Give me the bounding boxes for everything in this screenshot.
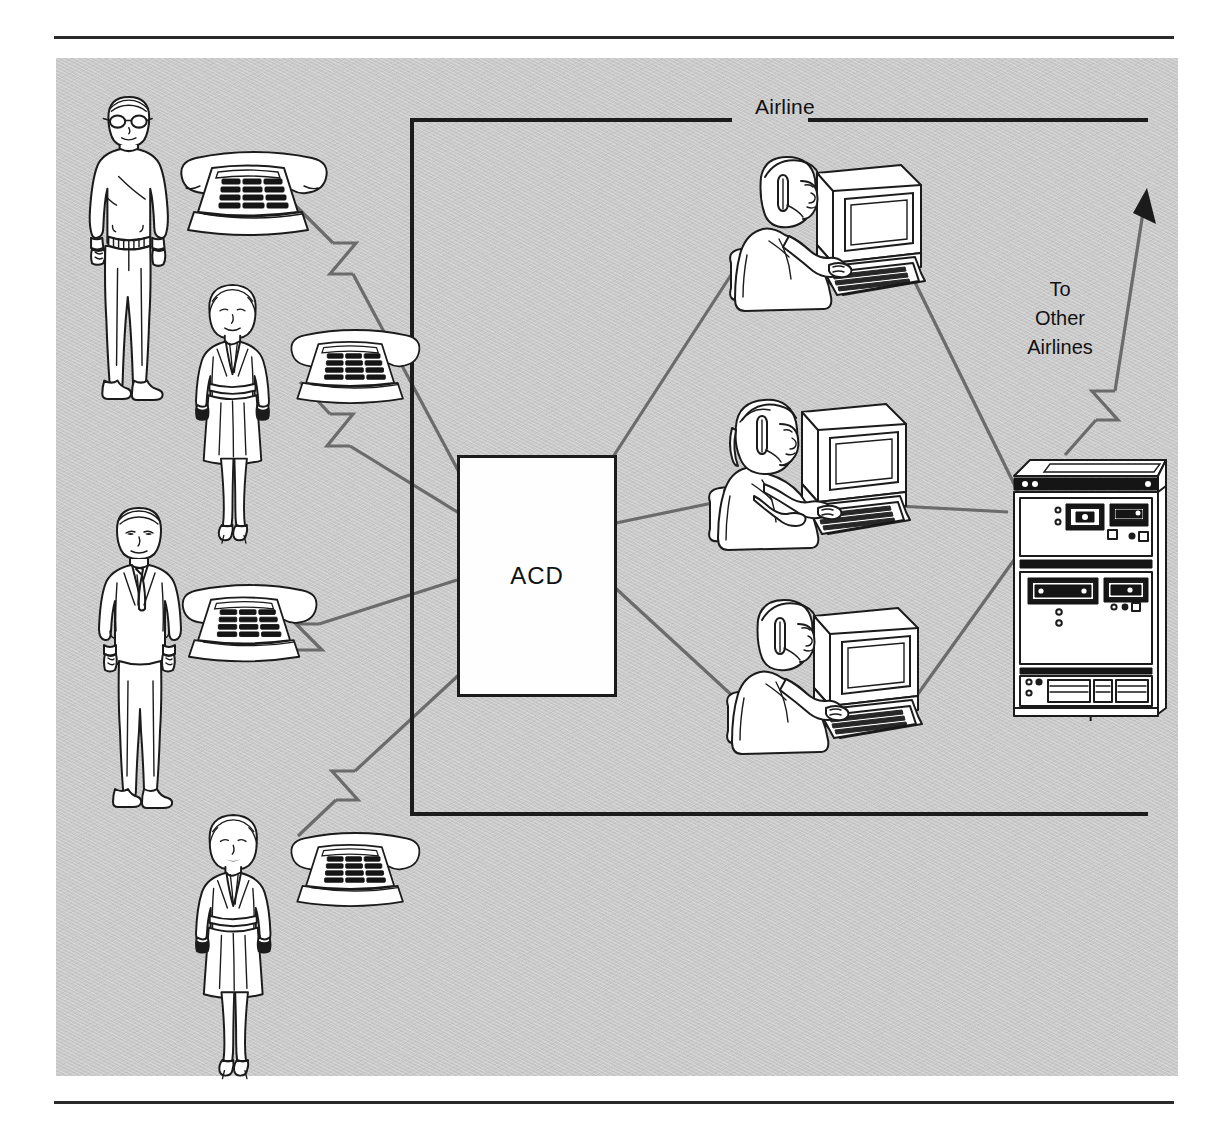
acd-node: ACD: [457, 455, 617, 697]
agent-terminal-icon-1: [730, 157, 925, 311]
caller-person-icon-2: [196, 285, 269, 543]
telephone-icon-4: [291, 833, 419, 906]
telephone-icon-1: [181, 152, 326, 235]
computer-mainframe-icon: [1014, 460, 1166, 716]
agent-terminal-icon-3: [727, 600, 922, 754]
telephone-icon-3: [183, 585, 317, 661]
telephone-icon-2: [291, 330, 419, 403]
caller-person-icon-1: [90, 97, 168, 400]
caller-person-icon-3: [99, 508, 181, 808]
agent-terminal-icon-2: [709, 400, 910, 550]
figure-page: ACD: [0, 0, 1227, 1129]
caller-person-icon-4: [196, 815, 270, 1079]
acd-label: ACD: [510, 562, 564, 590]
